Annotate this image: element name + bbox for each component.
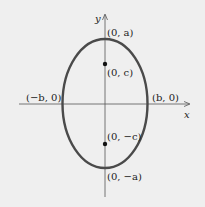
y-axis-label: y	[94, 13, 101, 24]
focus-bottom-marker	[103, 142, 107, 146]
label-covertex-left: (−b, 0)	[26, 92, 61, 103]
label-vertex-bottom: (0, −a)	[107, 171, 142, 182]
label-focus-bottom: (0, −c)	[107, 131, 142, 142]
x-axis-label: x	[184, 109, 190, 120]
label-focus-top: (0, c)	[107, 67, 133, 78]
label-covertex-right: (b, 0)	[152, 92, 179, 103]
ellipse-diagram: y x (0, a) (0, c) (−b, 0) (b, 0) (0, −c)…	[0, 0, 205, 207]
focus-top-marker	[103, 62, 107, 66]
label-vertex-top: (0, a)	[107, 27, 134, 38]
